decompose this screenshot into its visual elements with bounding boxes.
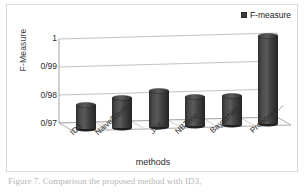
- bar-chart-svg: [59, 33, 291, 125]
- y-axis-title-wrap: F-Measure: [11, 39, 23, 131]
- legend-entry-label: F-measure: [250, 11, 291, 20]
- square-swatch-icon: [241, 12, 247, 18]
- y-tick-label: 1: [52, 34, 57, 43]
- chart-legend: F-measure: [241, 11, 291, 20]
- y-tick-label: 0/98: [40, 91, 57, 100]
- y-tick-label: 0/99: [40, 62, 57, 71]
- figure-container: F-measure F-Measure 1 0/99 0/98 0/97: [0, 0, 307, 195]
- figure-caption: Figure 7. Comparison the proposed method…: [8, 176, 304, 186]
- plot-area: [59, 33, 291, 125]
- y-tick-label: 0/97: [40, 119, 57, 128]
- x-axis-title: methods: [7, 157, 299, 167]
- chart-plot-frame: F-measure F-Measure 1 0/99 0/98 0/97: [6, 4, 298, 172]
- y-axis-tick-labels: 1 0/99 0/98 0/97: [23, 33, 57, 125]
